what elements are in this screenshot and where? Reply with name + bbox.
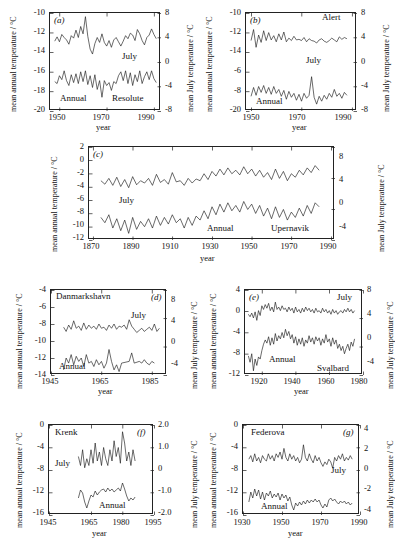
tick-mark — [172, 237, 173, 241]
x-tick: 1980 — [346, 377, 372, 386]
panel-c-left-axis-title: mean annual temperature / °C — [50, 156, 59, 252]
panel-e-left-axis-title: mean annual temperature / °C — [209, 293, 218, 389]
x-tick: 1970 — [284, 113, 310, 122]
tick-mark — [243, 470, 247, 471]
y-tick: -8 — [24, 319, 46, 328]
panel-d-july-label: July — [131, 310, 146, 320]
tick-mark — [243, 448, 247, 449]
x-tick: 1965 — [87, 377, 113, 386]
tick-mark — [291, 147, 292, 151]
tick-mark — [331, 237, 332, 241]
x-tick: 1985 — [137, 377, 163, 386]
series-july — [78, 432, 135, 468]
y2-tick: 8 — [361, 8, 365, 17]
tick-mark — [296, 372, 297, 376]
y2-tick: -4 — [367, 357, 374, 366]
tick-mark — [262, 290, 263, 294]
x-tick: 1990 — [330, 113, 356, 122]
y-tick: -12 — [22, 486, 44, 495]
tick-mark — [360, 425, 361, 429]
tick-mark — [89, 200, 93, 201]
panel-c-right-axis-title: mean July temperature / °C — [377, 164, 386, 252]
tick-mark — [360, 512, 361, 516]
panel-b-annual-label: Annual — [256, 96, 283, 106]
y2-tick: 0 — [364, 464, 368, 473]
panel-a-july-label: July — [122, 51, 137, 61]
tick-mark — [152, 372, 153, 376]
tick-mark — [51, 324, 55, 325]
panel-d-plot-area: (d) July Annual Danmarkshavn — [50, 289, 166, 374]
tick-mark — [357, 493, 361, 494]
x-tick: 1870 — [78, 242, 104, 251]
x-tick: 1950 — [238, 113, 264, 122]
panel-d-x-axis-title: year — [98, 386, 113, 396]
tick-mark — [49, 493, 53, 494]
tick-mark — [49, 448, 53, 449]
y-tick: -14 — [20, 46, 45, 55]
tick-mark — [91, 512, 92, 516]
y-tick: -8 — [216, 86, 241, 95]
tick-mark — [243, 515, 247, 516]
tick-mark — [91, 425, 92, 429]
tick-mark — [363, 290, 364, 294]
y2-tick: -2.0 — [158, 508, 171, 517]
panel-b-station-title: Alert — [322, 12, 341, 22]
y2-tick: 2.0 — [158, 420, 169, 429]
x-tick: 1995 — [140, 518, 166, 527]
panel-e-july-label: July — [337, 292, 352, 302]
y-tick: -20 — [20, 105, 45, 114]
tick-mark — [50, 13, 54, 14]
tick-mark — [151, 515, 155, 516]
x-tick: 1930 — [197, 242, 223, 251]
series-july — [64, 320, 160, 333]
x-tick: 1990 — [315, 242, 341, 251]
tick-mark — [151, 493, 155, 494]
x-tick: 1950 — [236, 242, 262, 251]
y-tick: -6 — [24, 302, 46, 311]
y2-tick: 4 — [165, 32, 169, 41]
tick-mark — [154, 425, 155, 429]
x-tick: 1920 — [246, 377, 272, 386]
y-tick: -16 — [216, 508, 238, 517]
y-tick: -14 — [216, 46, 241, 55]
panel-c-upernavik: mean annual temperature / °C mean July t… — [0, 132, 392, 275]
tick-mark — [246, 52, 250, 53]
y-tick: -10 — [24, 336, 46, 345]
panel-g-station-title: Federova — [251, 427, 285, 437]
tick-mark — [332, 178, 336, 179]
tick-mark — [51, 341, 55, 342]
tick-mark — [89, 227, 93, 228]
y2-tick: -2 — [364, 484, 371, 493]
y-tick: -4 — [60, 181, 84, 190]
panel-e-station-title: Svalbard — [317, 363, 349, 373]
panel-e-annual-label: Annual — [269, 354, 296, 364]
tick-mark — [357, 425, 361, 426]
tick-mark — [243, 493, 247, 494]
tick-mark — [133, 147, 134, 151]
tick-mark — [357, 448, 361, 449]
tick-mark — [352, 13, 353, 17]
y2-tick: -4 — [171, 359, 178, 368]
panel-g-federova: mean annual temperature / °C mean July t… — [196, 410, 392, 549]
panel-e-plot-area: (e) July Annual Svalbard — [244, 289, 362, 374]
y2-tick: 4 — [367, 309, 371, 318]
y-tick: -10 — [216, 8, 241, 17]
tick-mark — [50, 52, 54, 53]
y-tick: 0 — [60, 155, 84, 164]
panel-b-plot-area: (b) July Annual Alert — [245, 12, 356, 110]
panel-e-letter: (e) — [249, 292, 259, 302]
x-tick: 1990 — [346, 518, 372, 527]
panel-d-letter: (d) — [151, 292, 162, 302]
y-tick: -4 — [24, 285, 46, 294]
tick-mark — [243, 512, 244, 516]
y2-tick: 8 — [339, 152, 343, 161]
x-tick: 1965 — [76, 518, 102, 527]
y-tick: 0 — [216, 420, 238, 429]
panel-f-annual-label: Annual — [99, 500, 126, 510]
tick-mark — [164, 318, 168, 319]
tick-mark — [357, 515, 361, 516]
y-tick: -12 — [216, 486, 238, 495]
tick-mark — [302, 13, 303, 17]
panel-a-right-axis-title: mean July temperature / °C — [186, 24, 195, 112]
tick-mark — [133, 237, 134, 241]
